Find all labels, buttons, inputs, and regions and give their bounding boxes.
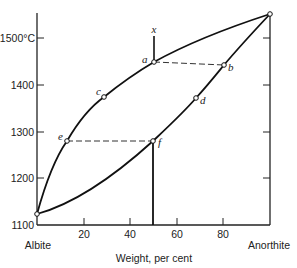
x-tick-20: 20: [78, 228, 90, 240]
y-ticks-right: [263, 38, 270, 178]
label-e: e: [58, 130, 63, 142]
anorthite-label: Anorthite: [248, 239, 290, 251]
y-tick-1300: 1300: [11, 126, 35, 138]
point-albite-melting: [35, 212, 40, 217]
y-ticks-left: [37, 38, 44, 178]
point-anorthite-melting: [268, 12, 273, 17]
albite-label: Albite: [25, 239, 51, 251]
y-tick-1400: 1400: [11, 79, 35, 91]
x-tick-60: 60: [171, 228, 183, 240]
label-d: d: [200, 94, 206, 106]
label-f: f: [158, 136, 163, 148]
point-d: [194, 96, 199, 101]
point-c: [102, 95, 107, 100]
x-tick-80: 80: [217, 228, 229, 240]
label-x: x: [151, 23, 157, 35]
point-b: [222, 63, 227, 68]
y-tick-1100: 1100: [11, 219, 34, 231]
label-a: a: [142, 53, 148, 65]
label-c: c: [96, 85, 101, 97]
point-a: [152, 60, 157, 65]
point-e: [65, 139, 70, 144]
y-tick-1200: 1200: [11, 172, 35, 184]
x-axis-label: Weight, per cent: [116, 252, 192, 264]
point-f: [151, 139, 156, 144]
phase-diagram: 1100 1200 1300 1400 1500°C 20 40 60 80 A…: [0, 0, 297, 268]
y-tick-1500: 1500°C: [0, 32, 35, 44]
label-b: b: [228, 61, 234, 73]
tie-line-a-b: [154, 62, 224, 65]
x-tick-40: 40: [124, 228, 136, 240]
